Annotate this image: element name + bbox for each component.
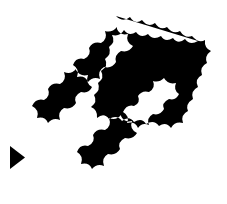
lattice-body-path [32, 16, 211, 169]
cursor-triangle-shape [10, 146, 25, 169]
scalloped-diamond-lattice-graphic [0, 0, 227, 204]
lattice-group [32, 16, 211, 169]
screenshot-canvas [0, 0, 227, 204]
play-triangle-cursor[interactable] [8, 143, 28, 171]
